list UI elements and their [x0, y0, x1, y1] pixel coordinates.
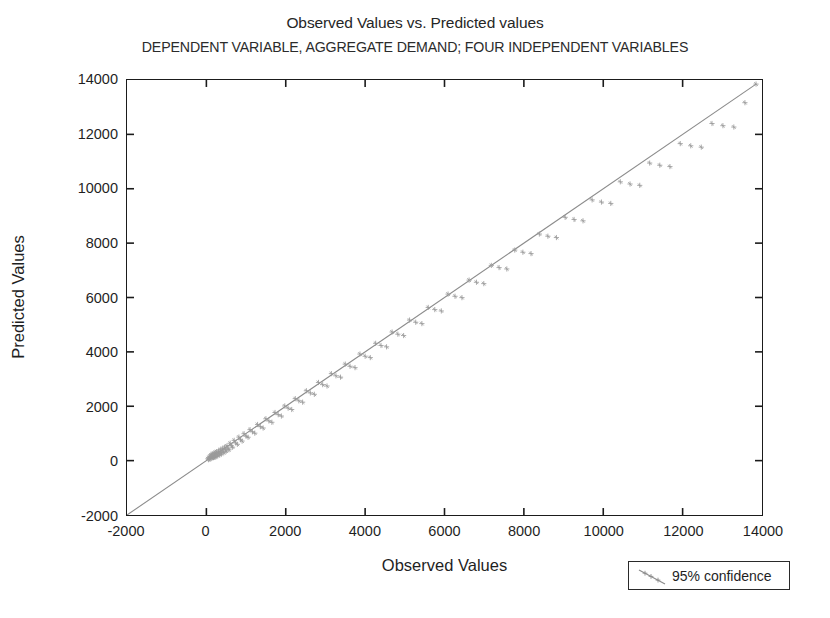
legend-label: 95% confidence: [672, 568, 772, 584]
y-tick-label: 6000: [56, 290, 118, 306]
y-axis-title: Predicted Values: [9, 235, 28, 359]
x-tick-label: 14000: [743, 523, 783, 539]
y-tick-label: 2000: [56, 399, 118, 415]
x-tick-label: -2000: [107, 523, 144, 539]
figure-container: Observed Values vs. Predicted values DEP…: [0, 0, 830, 618]
y-tick-label: 0: [56, 453, 118, 469]
legend[interactable]: 95% confidence: [628, 561, 790, 590]
y-tick-label: 14000: [56, 71, 118, 87]
y-tick-label: 8000: [56, 235, 118, 251]
confidence-line-icon: [636, 565, 670, 587]
chart-title: Observed Values vs. Predicted values: [0, 14, 830, 32]
y-tick-label: 10000: [56, 180, 118, 196]
y-tick-label: 4000: [56, 344, 118, 360]
x-tick-label: 0: [202, 523, 210, 539]
y-tick-label: -2000: [56, 508, 118, 524]
x-tick-label: 8000: [508, 523, 540, 539]
x-tick-label: 4000: [349, 523, 381, 539]
plot-canvas: [127, 80, 762, 515]
chart-subtitle: DEPENDENT VARIABLE, AGGREGATE DEMAND; FO…: [0, 39, 830, 55]
x-tick-label: 12000: [663, 523, 703, 539]
x-tick-label: 6000: [428, 523, 460, 539]
y-tick-label: 12000: [56, 126, 118, 142]
plot-area: [126, 79, 763, 516]
x-tick-label: 2000: [269, 523, 301, 539]
x-tick-label: 10000: [584, 523, 624, 539]
